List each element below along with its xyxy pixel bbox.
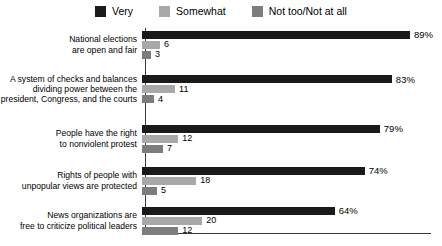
chart-legend: VerySomewhatNot too/Not at all: [0, 2, 442, 20]
category-label-line: to nonviolent protest: [0, 139, 137, 149]
bar-row[interactable]: 12: [142, 134, 442, 143]
legend-label: Not too/Not at all: [269, 6, 347, 17]
legend-item[interactable]: Very: [95, 6, 133, 17]
bar-value-label: 4: [158, 95, 163, 104]
bar-row[interactable]: 64%: [142, 206, 442, 215]
bar-value-label: 79%: [384, 124, 403, 133]
category-label-line: president, Congress, and the courts: [0, 94, 137, 104]
bar-row[interactable]: 7: [142, 144, 442, 153]
bar-very[interactable]: [142, 167, 365, 175]
bar-value-label: 5: [161, 186, 166, 195]
bar-very[interactable]: [142, 75, 392, 83]
bar-value-label: 12: [182, 134, 192, 143]
category-label-line: People have the right: [0, 128, 137, 138]
bar-stack: 64%2012: [141, 206, 442, 235]
bar-row[interactable]: 20: [142, 216, 442, 225]
bar-value-label: 64%: [339, 206, 358, 215]
legend-swatch-somewhat: [159, 6, 170, 17]
bar-somewhat[interactable]: [142, 85, 175, 93]
bar-not-too-not-at-all[interactable]: [142, 187, 157, 195]
bar-group: National electionsare open and fair89%63: [0, 30, 442, 59]
bar-chart: VerySomewhatNot too/Not at all National …: [0, 0, 442, 246]
bar-group: Rights of people withunpopular views are…: [0, 166, 442, 195]
bar-not-too-not-at-all[interactable]: [142, 51, 151, 59]
legend-item[interactable]: Not too/Not at all: [252, 6, 347, 17]
bar-group: News organizations arefree to criticize …: [0, 206, 442, 235]
bar-value-label: 11: [179, 85, 188, 94]
bar-somewhat[interactable]: [142, 135, 178, 143]
category-label-line: A system of checks and balances: [0, 74, 137, 84]
bar-very[interactable]: [142, 125, 380, 133]
category-label-line: dividing power between the: [0, 84, 137, 94]
category-label-line: free to criticize political leaders: [0, 221, 137, 231]
category-label: National electionsare open and fair: [0, 34, 141, 54]
bar-not-too-not-at-all[interactable]: [142, 145, 163, 153]
bar-row[interactable]: 18: [142, 176, 442, 185]
bar-value-label: 3: [155, 50, 160, 59]
bar-value-label: 89%: [414, 30, 433, 39]
bar-stack: 79%127: [141, 124, 442, 153]
bar-not-too-not-at-all[interactable]: [142, 227, 178, 235]
bar-stack: 89%63: [141, 30, 442, 59]
bar-value-label: 74%: [369, 166, 388, 175]
bar-value-label: 12: [182, 226, 192, 235]
bar-value-label: 6: [164, 40, 169, 49]
category-label: News organizations arefree to criticize …: [0, 210, 141, 230]
legend-label: Somewhat: [176, 6, 226, 17]
category-label-line: National elections: [0, 34, 137, 44]
bar-stack: 74%185: [141, 166, 442, 195]
bar-value-label: 83%: [396, 75, 415, 84]
bar-somewhat[interactable]: [142, 177, 196, 185]
bar-row[interactable]: 83%: [142, 75, 442, 84]
bar-row[interactable]: 89%: [142, 30, 442, 39]
bar-value-label: 20: [206, 216, 216, 225]
bar-value-label: 7: [167, 144, 172, 153]
bar-row[interactable]: 79%: [142, 124, 442, 133]
bar-value-label: 18: [200, 176, 210, 185]
legend-swatch-very: [95, 6, 106, 17]
bar-row[interactable]: 11: [142, 85, 442, 94]
bar-very[interactable]: [142, 31, 410, 39]
category-label-line: are open and fair: [0, 45, 137, 55]
category-label-line: unpopular views are protected: [0, 181, 137, 191]
legend-swatch-not-too: [252, 6, 263, 17]
bar-row[interactable]: 74%: [142, 166, 442, 175]
category-label-line: News organizations are: [0, 210, 137, 220]
bar-row[interactable]: 3: [142, 50, 442, 59]
bar-not-too-not-at-all[interactable]: [142, 95, 154, 103]
bar-row[interactable]: 12: [142, 226, 442, 235]
bar-somewhat[interactable]: [142, 217, 202, 225]
plot-area: National electionsare open and fair89%63…: [0, 26, 442, 242]
bar-stack: 83%114: [141, 75, 442, 104]
bar-row[interactable]: 4: [142, 95, 442, 104]
category-label: A system of checks and balancesdividing …: [0, 74, 141, 105]
legend-item[interactable]: Somewhat: [159, 6, 226, 17]
category-label-line: Rights of people with: [0, 170, 137, 180]
category-label: Rights of people withunpopular views are…: [0, 170, 141, 190]
bar-very[interactable]: [142, 207, 335, 215]
bar-group: A system of checks and balancesdividing …: [0, 74, 442, 105]
category-label: People have the rightto nonviolent prote…: [0, 128, 141, 148]
bar-group: People have the rightto nonviolent prote…: [0, 124, 442, 153]
bar-row[interactable]: 5: [142, 186, 442, 195]
bar-somewhat[interactable]: [142, 41, 160, 49]
legend-label: Very: [112, 6, 133, 17]
bar-row[interactable]: 6: [142, 40, 442, 49]
